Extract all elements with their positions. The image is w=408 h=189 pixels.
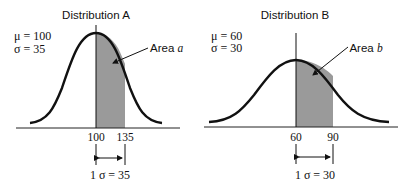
- sigma-label-b: σ = 30: [211, 41, 242, 55]
- sigma-label-a: σ = 35: [14, 42, 45, 56]
- interval-label-a: 1 σ = 35: [90, 168, 130, 182]
- normal-distributions-diagram: 100 135 60 90 Distribution A μ = 100 σ =…: [0, 0, 408, 189]
- mean-tick-label-b: 60: [290, 131, 302, 143]
- sd-tick-label-a: 135: [116, 131, 134, 143]
- sd-tick-label-b: 90: [327, 131, 339, 143]
- mean-tick-label-a: 100: [87, 131, 105, 143]
- area-b-pointer-arrow: [313, 47, 348, 75]
- area-a-label: Area a: [150, 42, 184, 54]
- title-distribution-a: Distribution A: [62, 9, 130, 21]
- title-distribution-b: Distribution B: [261, 9, 330, 21]
- area-b-label: Area b: [349, 42, 383, 54]
- interval-label-b: 1 σ = 30: [295, 168, 335, 182]
- mu-label-a: μ = 100: [14, 29, 51, 43]
- shaded-area-a: [96, 33, 125, 128]
- shaded-area-b: [296, 60, 333, 127]
